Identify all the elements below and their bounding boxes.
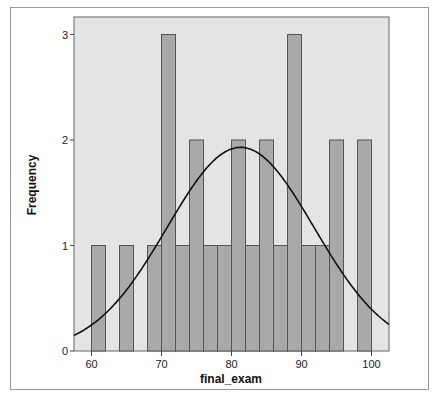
y-tick-label: 0 — [62, 345, 68, 357]
x-tick-label: 90 — [295, 358, 307, 370]
histogram-bar — [260, 140, 274, 351]
x-tick-label: 70 — [155, 358, 167, 370]
x-axis-title: final_exam — [200, 372, 262, 386]
histogram-bar — [190, 140, 204, 351]
histogram-bar — [232, 140, 246, 351]
histogram-bar — [316, 246, 330, 352]
y-axis: 0123 — [62, 29, 74, 358]
y-tick-label: 1 — [62, 240, 68, 252]
histogram-bar — [288, 35, 302, 352]
histogram-bar — [246, 246, 260, 352]
histogram-bar — [274, 246, 288, 352]
histogram-bar — [358, 140, 372, 351]
x-tick-label: 60 — [85, 358, 97, 370]
x-tick-label: 100 — [362, 358, 380, 370]
histogram-bar — [204, 246, 218, 352]
histogram-bar — [148, 246, 162, 352]
histogram-bar — [120, 246, 134, 352]
y-tick-label: 3 — [62, 29, 68, 41]
histogram-bar — [330, 140, 344, 351]
histogram-bar — [92, 246, 106, 352]
histogram-bar — [218, 246, 232, 352]
histogram-chart: 0123 60708090100 final_exam Frequency — [0, 0, 437, 395]
x-tick-label: 80 — [225, 358, 237, 370]
x-axis: 60708090100 — [85, 351, 380, 370]
histogram-bar — [302, 246, 316, 352]
histogram-bar — [162, 35, 176, 352]
histogram-bar — [176, 246, 190, 352]
y-tick-label: 2 — [62, 134, 68, 146]
y-axis-title: Frequency — [25, 154, 39, 215]
